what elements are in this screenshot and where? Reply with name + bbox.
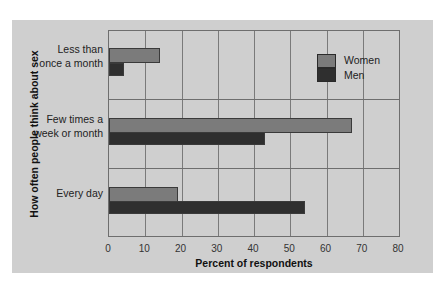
x-tick-label: 40 bbox=[247, 243, 258, 254]
gridline-horizontal bbox=[109, 99, 399, 100]
x-tick-label: 10 bbox=[139, 243, 150, 254]
bar-men bbox=[109, 132, 265, 145]
x-tick-label: 0 bbox=[105, 243, 111, 254]
bar-women bbox=[109, 48, 160, 63]
x-tick-label: 80 bbox=[392, 243, 403, 254]
legend-swatch-women bbox=[317, 54, 336, 68]
category-label-less-than-monthly: Less than once a month bbox=[39, 42, 103, 70]
bar-men bbox=[109, 63, 124, 76]
bar-men bbox=[109, 201, 305, 214]
legend-swatch-men bbox=[317, 68, 336, 82]
category-label-every-day: Every day bbox=[56, 186, 103, 200]
x-axis-label: Percent of respondents bbox=[195, 257, 312, 269]
x-tick-label: 30 bbox=[211, 243, 222, 254]
category-label-few-times: Few times a week or month bbox=[34, 112, 103, 140]
gridline-horizontal bbox=[109, 168, 399, 169]
x-tick-label: 60 bbox=[320, 243, 331, 254]
x-tick-label: 50 bbox=[284, 243, 295, 254]
x-tick-label: 20 bbox=[175, 243, 186, 254]
legend-label-women: Women bbox=[344, 54, 380, 66]
y-axis-label: How often people think about sex bbox=[28, 50, 40, 217]
bar-women bbox=[109, 187, 178, 202]
bar-women bbox=[109, 118, 352, 133]
x-tick-label: 70 bbox=[356, 243, 367, 254]
legend-label-men: Men bbox=[344, 69, 364, 81]
